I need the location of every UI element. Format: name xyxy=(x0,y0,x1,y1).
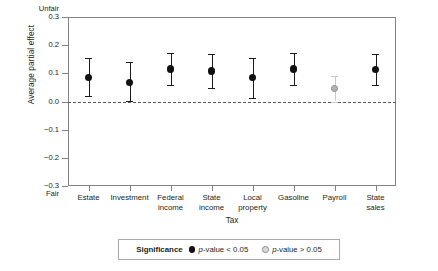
y-axis-anchor-unfair: Unfair xyxy=(19,5,59,13)
y-axis-tick-label: −0.2 xyxy=(19,154,59,162)
data-point xyxy=(167,65,174,72)
x-axis-tick xyxy=(171,186,172,191)
error-bar-cap-upper xyxy=(208,54,215,55)
y-axis-tick-label: 0.0 xyxy=(19,98,59,106)
y-axis-tick-label: −0.1 xyxy=(19,126,59,134)
error-bar-cap-lower xyxy=(167,85,174,86)
filled-circle-icon xyxy=(189,246,195,252)
y-axis-tick xyxy=(62,17,68,18)
legend: Significance p-value < 0.05 p-value > 0.… xyxy=(118,239,340,260)
error-bar-cap-upper xyxy=(85,58,92,59)
y-axis-anchor-fair: Fair xyxy=(19,190,59,198)
legend-label-not-significant: p-value > 0.05 xyxy=(272,245,322,254)
error-bar-cap-upper xyxy=(126,62,133,63)
x-axis-tick xyxy=(294,186,295,191)
x-axis-tick xyxy=(212,186,213,191)
y-axis-tick-label: 0.1 xyxy=(19,69,59,77)
error-bar-cap-upper xyxy=(249,58,256,59)
x-axis-tick xyxy=(89,186,90,191)
error-bar-cap-upper xyxy=(331,76,338,77)
x-axis-tick-label-line: State xyxy=(345,193,407,203)
legend-entry-not-significant: p-value > 0.05 xyxy=(262,245,322,254)
zero-line xyxy=(68,102,396,103)
legend-label-significant-rest: -value < 0.05 xyxy=(203,245,248,254)
y-axis-tick xyxy=(62,158,68,159)
chart-figure: Average partial effect 0.30.20.10.0−0.1−… xyxy=(0,0,438,271)
error-bar-cap-lower xyxy=(290,85,297,86)
legend-title: Significance xyxy=(136,245,182,254)
data-point xyxy=(208,67,215,74)
x-axis-tick xyxy=(376,186,377,191)
legend-label-not-significant-rest: -value > 0.05 xyxy=(276,245,321,254)
y-axis-tick-label: 0.3 xyxy=(19,13,59,21)
y-axis-tick xyxy=(62,130,68,131)
y-axis-tick xyxy=(62,186,68,187)
x-axis-tick-label-line: property xyxy=(222,203,284,213)
error-bar-cap-lower xyxy=(85,96,92,97)
open-circle-icon xyxy=(262,246,268,252)
y-axis-tick-label: 0.2 xyxy=(19,41,59,49)
legend-entry-significant: p-value < 0.05 xyxy=(189,245,249,254)
x-axis-tick-label: Statesales xyxy=(345,193,407,212)
error-bar-cap-upper xyxy=(290,53,297,54)
x-axis-tick xyxy=(253,186,254,191)
x-axis-tick xyxy=(335,186,336,191)
error-bar-cap-lower xyxy=(372,85,379,86)
legend-label-significant: p-value < 0.05 xyxy=(199,245,249,254)
x-axis-tick-label-line: sales xyxy=(345,203,407,213)
error-bar-cap-upper xyxy=(372,54,379,55)
error-bar-cap-lower xyxy=(331,102,338,103)
error-bar-cap-lower xyxy=(126,101,133,102)
y-axis-tick xyxy=(62,45,68,46)
y-axis-tick xyxy=(62,73,68,74)
x-axis-tick xyxy=(130,186,131,191)
x-axis-title: Tax xyxy=(68,216,396,225)
error-bar-cap-lower xyxy=(249,98,256,99)
error-bar-cap-lower xyxy=(208,88,215,89)
error-bar-cap-upper xyxy=(167,53,174,54)
data-point xyxy=(290,65,297,72)
